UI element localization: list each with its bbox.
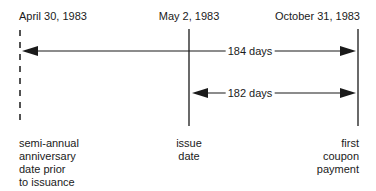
arrowhead-right-icon <box>340 46 356 56</box>
date-label-october-31: October 31, 1983 <box>275 10 360 23</box>
date-label-april-30: April 30, 1983 <box>19 10 87 23</box>
date-label-may-2: May 2, 1983 <box>159 10 220 23</box>
span-label-184-days: 184 days <box>226 45 275 58</box>
arrowhead-right-icon <box>340 88 356 98</box>
span-label-182-days: 182 days <box>226 87 275 100</box>
description-semi-annual-anniversary: semi-annual anniversary date prior to is… <box>19 137 79 189</box>
description-first-coupon-payment: first coupon payment <box>317 137 359 176</box>
arrowhead-left-icon <box>192 88 208 98</box>
description-issue-date: issue date <box>176 137 202 163</box>
arrowhead-left-icon <box>22 46 38 56</box>
